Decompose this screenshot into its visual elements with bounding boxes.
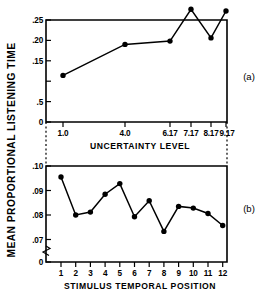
- data-point: [205, 211, 210, 216]
- data-point: [102, 192, 107, 197]
- panel-b-series-line: [61, 177, 223, 231]
- panel-a-xtick-0: 1.0: [58, 129, 69, 138]
- panel-b: .10 .09 .08 .07 0: [32, 162, 255, 291]
- panel-a-ytick-4: 0: [39, 118, 44, 127]
- panel-b-ytick-2: .08: [32, 211, 43, 220]
- panel-b-xtick-7: 8: [162, 269, 167, 278]
- data-point: [117, 181, 122, 186]
- data-point: [220, 223, 225, 228]
- panel-b-ytick-3: .07: [32, 236, 43, 245]
- panel-a-x-axis-title: UNCERTAINTY LEVEL: [90, 141, 190, 151]
- data-point: [176, 204, 181, 209]
- panel-a-ytick-1: .20: [32, 36, 43, 45]
- data-point: [167, 38, 172, 43]
- panel-b-xtick-0: 1: [59, 269, 64, 278]
- panel-b-x-tick-labels: 1 2 3 4 5 6 7 8 9 10 11 12: [59, 269, 228, 278]
- panel-a-ytick-0: .25: [32, 16, 43, 25]
- panel-b-xtick-9: 10: [189, 269, 198, 278]
- panel-a-ytick-3: .5: [37, 98, 44, 107]
- data-point: [191, 205, 196, 210]
- panel-b-ytick-0: .10: [32, 162, 43, 171]
- data-point: [73, 212, 78, 217]
- data-point: [122, 42, 127, 47]
- panel-a: .25 .20 .15 .5 0 1.0 4.0 6.17 7.17: [32, 7, 255, 151]
- panel-b-data-points: [58, 174, 225, 234]
- panel-b-xtick-10: 11: [204, 269, 213, 278]
- panel-b-xtick-11: 12: [218, 269, 227, 278]
- panel-b-xtick-5: 6: [132, 269, 137, 278]
- chart-svg: MEAN PROPORTIONAL LISTENING TIME .25 .20…: [0, 0, 269, 295]
- panel-b-xtick-3: 4: [103, 269, 108, 278]
- panel-b-ytick-1: .09: [32, 187, 43, 196]
- panel-a-x-tick-labels: 1.0 4.0 6.17 7.17 8.17 9.17: [58, 129, 236, 138]
- panel-b-ytick-4: 0: [39, 258, 44, 267]
- panel-b-xtick-2: 3: [88, 269, 93, 278]
- panel-a-xtick-2: 6.17: [162, 129, 178, 138]
- panel-a-ytick-2: .15: [32, 57, 43, 66]
- data-point: [161, 229, 166, 234]
- panel-b-x-axis-title: STIMULUS TEMPORAL POSITION: [64, 281, 216, 291]
- panel-b-xtick-8: 9: [176, 269, 181, 278]
- panel-b-y-tick-labels: .10 .09 .08 .07 0: [32, 162, 43, 267]
- data-point: [60, 73, 65, 78]
- panel-b-xtick-4: 5: [118, 269, 123, 278]
- panel-b-xtick-6: 7: [147, 269, 152, 278]
- panel-a-xtick-3: 7.17: [183, 129, 199, 138]
- data-point: [208, 35, 213, 40]
- panel-b-xtick-1: 2: [74, 269, 79, 278]
- data-point: [88, 209, 93, 214]
- panel-a-xtick-1: 4.0: [120, 129, 131, 138]
- y-axis-title-text: MEAN PROPORTIONAL LISTENING TIME: [6, 42, 17, 257]
- data-point: [188, 7, 193, 12]
- data-point: [58, 174, 63, 179]
- figure-container: MEAN PROPORTIONAL LISTENING TIME .25 .20…: [0, 0, 269, 295]
- data-point: [132, 214, 137, 219]
- panel-a-y-tick-labels: .25 .20 .15 .5 0: [32, 16, 43, 127]
- y-axis-title: MEAN PROPORTIONAL LISTENING TIME: [6, 42, 17, 257]
- data-point: [147, 198, 152, 203]
- panel-a-tag: (a): [243, 71, 255, 82]
- data-point: [223, 8, 228, 13]
- panel-b-tag: (b): [243, 203, 255, 214]
- panel-a-xtick-4: 8.17: [203, 129, 219, 138]
